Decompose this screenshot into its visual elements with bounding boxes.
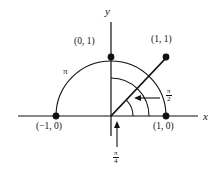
arrow-pi-over-4-head bbox=[114, 121, 120, 128]
point-1-1 bbox=[163, 54, 170, 61]
arrow-pi-over-4-label: π 4 bbox=[113, 150, 119, 166]
arrow-pi-over-2-head bbox=[134, 95, 141, 101]
point-1-0 bbox=[163, 113, 170, 120]
diagram-canvas bbox=[0, 0, 221, 172]
arc-pi-over-4 bbox=[127, 100, 133, 116]
point-0-1-label: (0, 1) bbox=[74, 37, 95, 47]
point-neg1-0 bbox=[53, 113, 60, 120]
arc-pi-label: π bbox=[63, 67, 68, 76]
unit-circle-diagram: y x (0, 1) (1, 1) (−1, 0) (1, 0) π π 2 π… bbox=[0, 0, 221, 172]
point-0-1 bbox=[108, 54, 115, 61]
pi-over-4-denominator: 4 bbox=[113, 158, 119, 165]
x-axis-label: x bbox=[203, 111, 208, 122]
y-axis-label: y bbox=[105, 6, 110, 17]
arrow-pi-over-2-label: π 2 bbox=[166, 88, 172, 104]
pi-over-2-denominator: 2 bbox=[166, 96, 172, 103]
point-neg1-0-label: (−1, 0) bbox=[36, 122, 62, 132]
point-1-0-label: (1, 0) bbox=[153, 122, 174, 132]
point-1-1-label: (1, 1) bbox=[151, 35, 172, 45]
